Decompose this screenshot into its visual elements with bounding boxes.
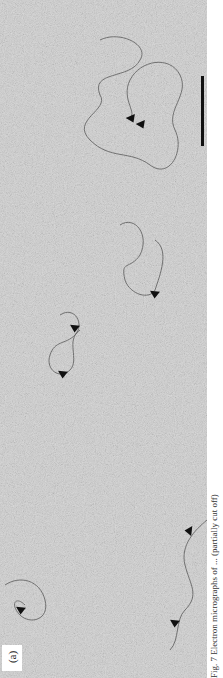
micrograph-panel: (a) [0,0,207,678]
micrograph-image [0,0,207,678]
panel-label: (a) [6,648,18,666]
figure-caption: Fig. 7 Electron micrographs of ... (part… [209,0,223,678]
caption-text: Fig. 7 Electron micrographs of ... (part… [209,494,219,678]
scale-bar [201,76,204,146]
